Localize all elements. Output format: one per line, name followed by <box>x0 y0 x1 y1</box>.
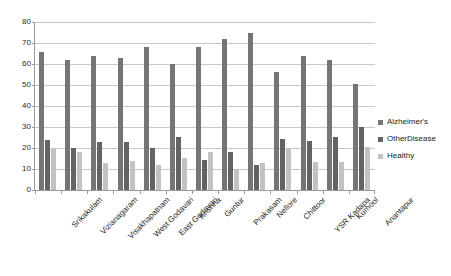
bar <box>274 72 279 190</box>
bar <box>208 152 213 190</box>
legend-label: Healthy <box>387 152 414 160</box>
x-axis-tick-mark <box>166 190 167 194</box>
x-axis-tick-mark <box>113 190 114 194</box>
bar <box>144 47 149 190</box>
bar-group <box>166 22 192 190</box>
bar-group <box>297 22 323 190</box>
bar <box>45 140 50 190</box>
legend-item[interactable]: Alzheimer's <box>378 118 436 126</box>
x-axis-tick-mark <box>61 190 62 194</box>
bar <box>254 165 259 190</box>
x-axis-tick-mark <box>323 190 324 194</box>
bar-group <box>349 22 375 190</box>
bar <box>130 161 135 190</box>
legend-swatch-icon <box>378 120 383 125</box>
y-axis-tick-label: 70 <box>22 39 31 47</box>
bar <box>124 142 129 190</box>
x-axis-label: Srikakulam <box>70 196 104 230</box>
bar <box>307 141 312 190</box>
bar <box>150 148 155 190</box>
bar-group <box>113 22 139 190</box>
x-axis-label: Guntur <box>223 196 246 219</box>
x-axis-tick-mark <box>87 190 88 194</box>
bar <box>103 163 108 190</box>
x-axis-label: Chittoor <box>302 196 327 221</box>
x-axis-tick-mark <box>35 190 36 194</box>
x-axis-tick-mark <box>244 190 245 194</box>
y-axis-tick-label: 50 <box>22 81 31 89</box>
y-axis-tick-label: 30 <box>22 123 31 131</box>
bar-group <box>87 22 113 190</box>
bar <box>280 139 285 190</box>
legend-swatch-icon <box>378 154 383 159</box>
y-axis-tick-label: 80 <box>22 18 31 26</box>
bar-chart: 01020304050607080 SrikakulamVizianagaram… <box>0 0 451 276</box>
bar <box>182 158 187 190</box>
bar <box>359 127 364 190</box>
y-axis-tick-label: 10 <box>22 165 31 173</box>
x-axis-tick-mark <box>374 190 375 194</box>
legend-swatch-icon <box>378 137 383 142</box>
bar-group <box>35 22 61 190</box>
bar-group <box>270 22 296 190</box>
plot-area: 01020304050607080 <box>34 22 375 191</box>
bar <box>286 148 291 190</box>
bar <box>327 60 332 190</box>
x-axis-tick-mark <box>297 190 298 194</box>
bar-group <box>61 22 87 190</box>
bar <box>313 162 318 190</box>
bar <box>91 56 96 190</box>
bar <box>51 148 56 190</box>
bar-group <box>192 22 218 190</box>
bar-group <box>218 22 244 190</box>
y-axis-tick-label: 20 <box>22 144 31 152</box>
y-axis-tick-label: 40 <box>22 102 31 110</box>
bar <box>301 56 306 190</box>
bar <box>97 142 102 190</box>
bar-group <box>140 22 166 190</box>
legend-label: OtherDisease <box>387 135 436 143</box>
x-axis-tick-mark <box>140 190 141 194</box>
bar <box>248 33 253 191</box>
x-axis-labels: SrikakulamVizianagaramVisakhapatnamWest … <box>34 196 374 274</box>
bar <box>176 137 181 190</box>
y-axis-tick-label: 60 <box>22 60 31 68</box>
legend-label: Alzheimer's <box>387 118 428 126</box>
chart-legend: Alzheimer'sOtherDiseaseHealthy <box>378 118 436 160</box>
x-axis-tick-mark <box>270 190 271 194</box>
bar <box>260 163 265 190</box>
bar <box>77 152 82 190</box>
legend-item[interactable]: Healthy <box>378 152 436 160</box>
bar-group <box>244 22 270 190</box>
bar <box>333 137 338 190</box>
bar <box>156 165 161 190</box>
bar-group <box>323 22 349 190</box>
x-axis-tick-mark <box>218 190 219 194</box>
bar <box>353 84 358 190</box>
bar <box>71 148 76 190</box>
bar <box>118 58 123 190</box>
bar <box>196 47 201 190</box>
legend-item[interactable]: OtherDisease <box>378 135 436 143</box>
bar <box>65 60 70 190</box>
bar <box>170 64 175 190</box>
bar <box>339 162 344 190</box>
bar <box>365 147 370 190</box>
bar <box>234 169 239 190</box>
bar <box>39 52 44 190</box>
bar <box>222 39 227 190</box>
bar <box>228 152 233 190</box>
y-axis-tick-label: 0 <box>27 186 31 194</box>
bar-groups <box>35 22 375 190</box>
bar <box>202 160 207 190</box>
x-axis-tick-mark <box>349 190 350 194</box>
x-axis-tick-mark <box>192 190 193 194</box>
x-axis-label: Anantapur <box>384 196 416 228</box>
